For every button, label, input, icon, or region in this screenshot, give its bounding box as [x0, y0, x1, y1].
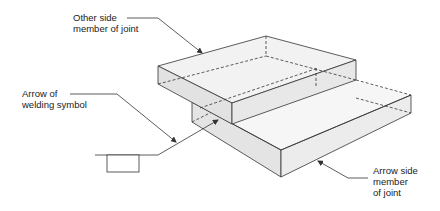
- welding-symbol: [95, 120, 218, 172]
- weld-box: [107, 155, 139, 172]
- arrow-side-member-label: Arrow side member of joint: [373, 165, 418, 198]
- arrow-of-welding-symbol-label: Arrow of welding symbol: [22, 88, 87, 110]
- welding-symbol-arrow: [158, 120, 218, 155]
- other-side-member-label: Other side member of joint: [73, 12, 138, 34]
- arrow-side-leader: [318, 161, 368, 178]
